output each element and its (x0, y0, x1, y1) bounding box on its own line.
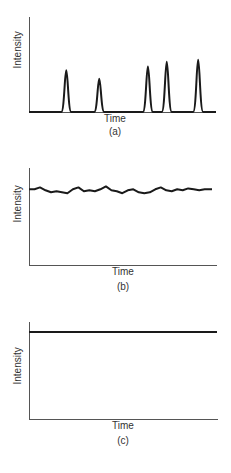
constant-plot (0, 300, 231, 473)
chart-panel-c: Intensity Time (c) (0, 300, 231, 473)
y-axis-label: Intensity (12, 335, 23, 385)
noise-series (29, 186, 212, 193)
panel-caption: (b) (108, 281, 138, 292)
y-axis-label: Intensity (12, 173, 23, 223)
panel-caption: (a) (100, 126, 130, 137)
panel-caption: (c) (108, 435, 138, 446)
chart-panel-a: Intensity Time (a) (0, 0, 231, 140)
x-axis-label: Time (100, 113, 130, 124)
x-axis-label: Time (108, 266, 138, 277)
y-axis-label: Intensity (12, 19, 23, 69)
x-axis-label: Time (108, 420, 138, 431)
chart-panel-b: Intensity Time (b) (0, 140, 231, 300)
peaks-series (29, 60, 216, 112)
